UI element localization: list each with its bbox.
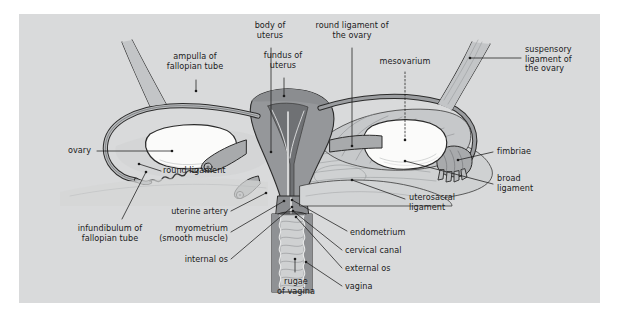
label-ovary: ovary [68, 146, 91, 156]
dot-fimbriae [457, 159, 460, 162]
label-round-ligament: round ligament [163, 166, 226, 176]
dot-cervical-canal [292, 210, 295, 213]
dot-internal-os [291, 206, 294, 209]
label-cervical-canal: cervical canal [345, 246, 401, 256]
dot-body-of-uterus [270, 151, 273, 154]
label-ampulla-of-fallopian-tube: ampulla of fallopian tube [167, 52, 223, 71]
dot-fundus [283, 95, 286, 98]
left-suspensory-band [122, 40, 166, 106]
dot-round-ligament [138, 163, 141, 166]
label-infundibulum-of-fallopian-tube: infundibulum of fallopian tube [78, 224, 143, 243]
dot-myometrium [283, 200, 286, 203]
dot-uterine-artery [265, 192, 268, 195]
label-vagina: vagina [345, 282, 373, 292]
label-external-os: external os [345, 264, 391, 274]
dot-ovary [171, 150, 174, 153]
left-peritoneal-sheet [60, 178, 268, 206]
label-uterosacral-ligament: uterosacral ligament [409, 193, 455, 212]
label-internal-os: internal os [185, 255, 228, 265]
label-rugae-of-vagina: rugae of vagina [277, 277, 315, 296]
label-round-ligament-of-the-ovary: round ligament of the ovary [315, 21, 388, 40]
label-body-of-uterus: body of uterus [255, 21, 286, 40]
label-uterine-artery: uterine artery [171, 207, 228, 217]
dot-ampulla [195, 90, 198, 93]
label-fundus-of-uterus: fundus of uterus [264, 51, 302, 70]
dot-mesovarium [404, 139, 407, 142]
dot-broad-ligament [404, 160, 407, 163]
dot-round-lig-ovary [351, 145, 354, 148]
label-suspensory-ligament-of-the-ovary: suspensory ligament of the ovary [525, 45, 572, 74]
dot-infundibulum [145, 171, 148, 174]
anatomy-figure: ampulla of fallopian tube body of uterus… [0, 0, 619, 324]
label-endometrium: endometrium [350, 228, 405, 238]
dot-vagina [305, 261, 308, 264]
label-myometrium-smooth-muscle: myometrium (smooth muscle) [159, 224, 228, 243]
dot-uterosacral [351, 179, 354, 182]
label-mesovarium: mesovarium [380, 57, 431, 67]
dot-rugae [294, 258, 297, 261]
dot-suspensory [469, 57, 472, 60]
suspensory-ligament [438, 40, 490, 110]
dot-external-os [295, 216, 298, 219]
label-fimbriae: fimbriae [497, 147, 531, 157]
dot-endometrium [291, 199, 294, 202]
label-broad-ligament: broad ligament [497, 174, 533, 193]
